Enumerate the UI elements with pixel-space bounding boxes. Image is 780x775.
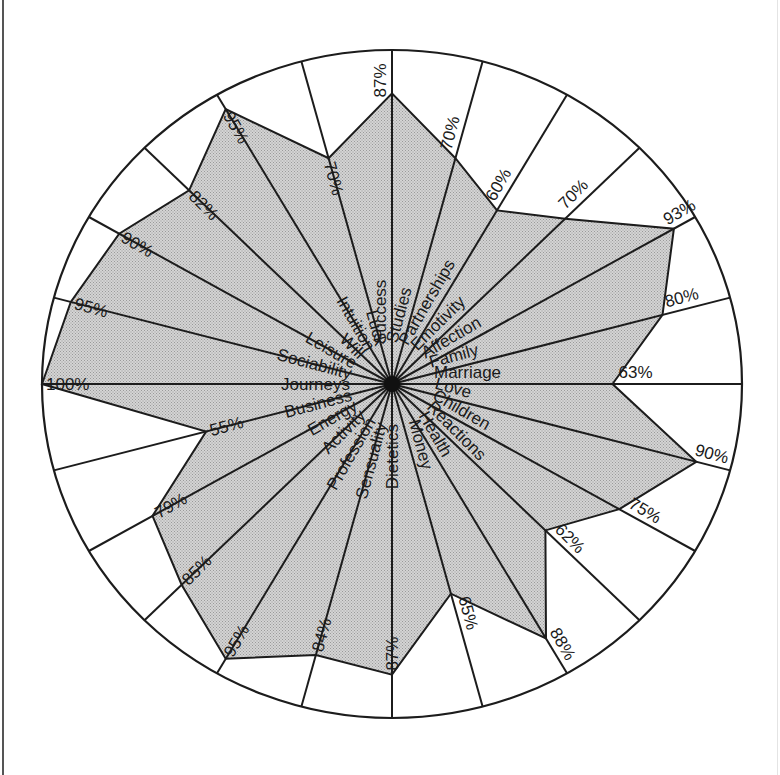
value-label-dietetics: 87% — [383, 637, 402, 671]
value-label-emotivity: 70% — [555, 175, 592, 212]
value-label-partnerships: 60% — [482, 165, 515, 204]
center-hub — [384, 376, 400, 392]
radar-chart: SuccessStudiesPartnershipsEmotivityAffec… — [0, 0, 780, 775]
value-label-love: 90% — [693, 440, 731, 467]
value-label-journeys: 100% — [46, 375, 89, 394]
value-label-marriage: 63% — [619, 363, 653, 382]
value-label-health: 88% — [546, 625, 579, 664]
value-label-affection: 93% — [660, 195, 699, 228]
value-label-success: 87% — [371, 63, 390, 97]
